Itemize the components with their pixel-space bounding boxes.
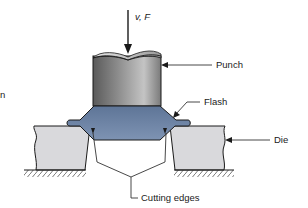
punch-leader: [161, 62, 212, 68]
die-right: [170, 126, 234, 177]
die-leader: [225, 137, 270, 143]
trimming-diagram: [0, 0, 308, 208]
flash-leader: [173, 102, 200, 118]
die-label: Die: [274, 135, 288, 145]
force-label: v, F: [135, 12, 150, 22]
force-arrow-icon: [124, 10, 132, 54]
die-left: [24, 126, 90, 177]
cutting-edges-label: Cutting edges: [141, 193, 200, 203]
punch: [93, 51, 161, 106]
flash-label: Flash: [204, 97, 227, 107]
punch-label: Punch: [216, 60, 243, 70]
left-edge-text-fragment: n: [0, 90, 5, 100]
cutting-edges-leader: [93, 133, 166, 198]
